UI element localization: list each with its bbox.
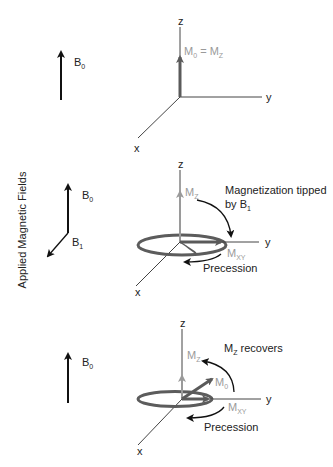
panel-recovery: B0 z y x MZ M0 MZ recovers MXY Precessio… (68, 317, 283, 457)
precession-arrow (188, 407, 224, 418)
m0-label: M0 (215, 376, 228, 390)
precession-ring-front (138, 245, 226, 255)
b0-label: B0 (82, 189, 93, 203)
mz-label: MZ (187, 349, 201, 363)
applied-magnetic-fields-label: Applied Magnetic Fields (16, 171, 28, 288)
precession-label: Precession (204, 421, 258, 433)
b0-label: B0 (82, 356, 93, 370)
b0-label: B0 (74, 56, 85, 70)
z-axis-label: z (178, 15, 184, 27)
tip-angle-sector (180, 242, 196, 253)
m0-equals-mz-label: M0 = MZ (184, 45, 224, 59)
z-axis-label: z (178, 158, 184, 170)
x-axis-label: x (135, 286, 141, 298)
b1-label: B1 (72, 236, 83, 250)
z-axis-label: z (180, 317, 186, 329)
x-axis (138, 97, 180, 138)
mri-magnetization-diagram: Applied Magnetic Fields B0 z y x M0 = MZ… (0, 0, 333, 467)
panel-tipped: B0 B1 z y x MZ Magnetization tipped by B… (48, 158, 327, 298)
x-axis-label: x (137, 445, 143, 457)
x-axis-label: x (134, 142, 140, 154)
mz-label: MZ (185, 186, 199, 200)
precession-label: Precession (203, 262, 257, 274)
mxy-label: MXY (228, 401, 247, 415)
by-b1-label: by B1 (225, 198, 251, 212)
y-axis-label: y (266, 393, 272, 405)
b1-field-arrow (48, 233, 68, 256)
magnetization-tipped-label: Magnetization tipped (225, 184, 327, 196)
y-axis-label: y (266, 91, 272, 103)
panel-equilibrium: B0 z y x M0 = MZ (61, 15, 272, 154)
y-axis-label: y (265, 236, 271, 248)
mz-recovers-label: MZ recovers (224, 342, 283, 356)
mxy-label: MXY (227, 247, 246, 261)
